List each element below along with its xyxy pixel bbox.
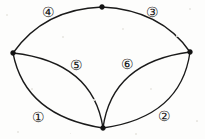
graph-diagram-figure: ①②③④⑤⑥ [0,0,205,139]
bottom-vertex [101,126,106,131]
edge-top-left [13,7,102,53]
left-vertex [11,51,16,56]
region-label-5: ⑤ [70,59,83,73]
right-vertex [188,50,193,55]
region-label-3: ③ [146,6,159,20]
top-vertex [100,5,105,10]
region-label-4: ④ [42,6,55,20]
region-label-2: ② [158,110,171,124]
region-label-1: ① [32,111,45,125]
edge-inner-right [103,52,190,128]
region-label-6: ⑥ [121,58,134,72]
edge-inner-left [13,53,103,128]
